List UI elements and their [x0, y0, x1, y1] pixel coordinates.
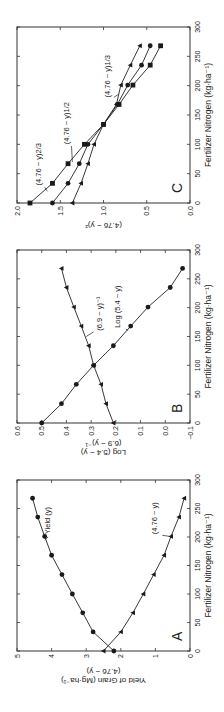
y-axis-label: Yield of Grain (Mg·ha⁻¹) — [61, 676, 146, 685]
data-point-triangle — [151, 572, 156, 577]
x-tick-label: 50 — [194, 390, 201, 398]
x-tick-label: 200 — [194, 531, 201, 543]
series-annotation: (4.76 − y)1/2 — [62, 102, 71, 144]
y-tick-label: 3 — [83, 654, 90, 658]
data-point-circle — [148, 43, 153, 48]
x-tick-label: 0 — [194, 201, 201, 205]
series-annotation: (6.9 − y)⁻¹ — [95, 296, 104, 331]
x-tick-label: 300 — [194, 21, 201, 33]
panel-b-log-reciprocal-chart: 050100150200250300−0.10.00.10.20.30.40.5… — [14, 244, 214, 457]
data-point-circle — [59, 401, 64, 406]
data-point-circle — [128, 324, 133, 329]
y-tick-label: 0.3 — [88, 426, 95, 436]
y-tick-label: 2.0 — [14, 206, 21, 216]
x-axis-label: Fertilizer Nitrogen (kg·ha⁻¹) — [203, 284, 213, 388]
panel-label: C — [169, 183, 185, 193]
series-annotation: (4.76 − y)2/3 — [34, 143, 43, 185]
data-point-square — [131, 83, 136, 88]
x-tick-label: 150 — [194, 560, 201, 572]
series-annotation: Log (5.4 − y) — [113, 285, 122, 328]
y-tick-label: 0.5 — [143, 206, 150, 216]
data-point-circle — [86, 142, 91, 147]
data-point-circle — [139, 63, 144, 68]
y-tick-label: 1 — [152, 654, 159, 658]
panel-a-yield-chart: 050100150200250300012345Fertilizer Nitro… — [14, 474, 214, 685]
data-point-circle — [111, 649, 116, 654]
x-tick-label: 250 — [194, 50, 201, 62]
x-tick-label: 100 — [194, 588, 201, 600]
y-axis-label-secondary: (6.9 − y)⁻¹ — [85, 439, 122, 448]
x-tick-label: 200 — [194, 80, 201, 92]
y-tick-label: 4 — [48, 654, 55, 658]
series-line — [104, 498, 185, 651]
data-point-square — [28, 201, 33, 206]
y-tick-label: 0.2 — [112, 426, 119, 436]
plot-frame — [17, 250, 190, 423]
y-tick-label: 5 — [14, 654, 21, 658]
x-tick-label: 100 — [194, 359, 201, 371]
data-point-triangle — [137, 43, 142, 48]
x-tick-label: 150 — [194, 331, 201, 343]
data-point-circle — [168, 285, 173, 290]
y-tick-label: 0.6 — [14, 426, 21, 436]
data-point-circle — [74, 382, 79, 387]
y-tick-label: 0.0 — [162, 426, 169, 436]
data-point-triangle — [101, 649, 106, 654]
x-tick-label: 100 — [194, 138, 201, 150]
y-tick-label: −0.1 — [187, 426, 194, 440]
data-point-triangle — [130, 610, 135, 615]
data-point-square — [148, 63, 153, 68]
data-point-circle — [66, 181, 71, 186]
series-line — [30, 46, 161, 203]
panel-label: A — [169, 631, 185, 641]
data-point-circle — [50, 201, 55, 206]
y-tick-label: 2 — [117, 654, 124, 658]
data-point-square — [50, 181, 55, 186]
y-axis-label: Log (5.4 − y) — [81, 448, 126, 457]
data-point-circle — [180, 266, 185, 271]
y-axis-label-secondary: (4.76 − y) — [86, 667, 120, 676]
data-point-square — [158, 43, 163, 48]
panel-label: B — [169, 404, 185, 413]
data-point-circle — [30, 496, 35, 501]
x-tick-label: 200 — [194, 302, 201, 314]
y-tick-label: 0 — [187, 654, 194, 658]
x-tick-label: 250 — [194, 273, 201, 285]
y-tick-label: 1.0 — [100, 206, 107, 216]
data-point-triangle — [59, 266, 64, 271]
y-tick-label: 0.1 — [137, 426, 144, 436]
x-tick-label: 0 — [194, 421, 201, 425]
data-point-circle — [80, 610, 85, 615]
data-point-circle — [77, 161, 82, 166]
plot-frame — [17, 480, 190, 651]
x-tick-label: 0 — [194, 649, 201, 653]
chart-figure: 050100150200250300012345Fertilizer Nitro… — [0, 0, 224, 712]
y-tick-label: 0.5 — [38, 426, 45, 436]
panel-c-power-transform-chart: 0501001502002503000.00.51.01.52.0Fertili… — [14, 21, 214, 230]
y-tick-label: 0.4 — [63, 426, 70, 436]
data-point-circle — [91, 630, 96, 635]
y-axis-label: (4.76 − y)ᶻ — [85, 221, 122, 230]
x-tick-label: 250 — [194, 503, 201, 515]
data-point-triangle — [128, 63, 133, 68]
y-tick-label: 0.0 — [187, 206, 194, 216]
y-tick-label: 1.5 — [57, 206, 64, 216]
series-annotation: (4.76 − y)1/3 — [103, 55, 112, 97]
data-point-circle — [35, 515, 40, 520]
data-point-circle — [125, 83, 130, 88]
data-point-triangle — [161, 553, 166, 558]
x-tick-label: 50 — [194, 170, 201, 178]
data-point-circle — [146, 305, 151, 310]
series-annotation: (4.76 − y) — [150, 502, 159, 534]
data-point-circle — [111, 343, 116, 348]
series-annotation: Yield (y) — [43, 506, 52, 534]
data-point-square — [66, 161, 71, 166]
x-axis-label: Fertilizer Nitrogen (kg·ha⁻¹) — [203, 63, 213, 167]
x-tick-label: 300 — [194, 474, 201, 486]
data-point-triangle — [141, 592, 146, 597]
x-tick-label: 300 — [194, 244, 201, 256]
data-point-circle — [60, 572, 65, 577]
x-tick-label: 150 — [194, 109, 201, 121]
data-point-circle — [70, 592, 75, 597]
data-point-triangle — [70, 201, 75, 206]
